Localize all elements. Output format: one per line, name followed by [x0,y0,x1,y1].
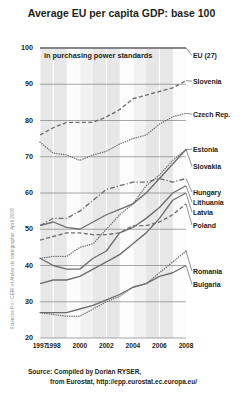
x-axis-tick-2000: 2000 [67,342,93,349]
chart-page: Average EU per capita GDP: base 100 Scie… [0,0,243,402]
series-leader-line [186,204,192,225]
source-note: Source: Compiled by Dorian RYSER, from E… [28,367,197,386]
x-axis-tick-2004: 2004 [120,342,146,349]
series-leader-line [186,150,192,167]
series-label-slovakia: Slovakia [193,163,221,170]
series-leader-line [186,179,192,193]
series-leader-line [186,186,192,202]
y-axis-tick-20: 20 [13,333,33,342]
series-label-slovenia: Slovenia [193,78,221,85]
series-label-latvia: Latvia [193,209,213,216]
x-axis-tick-2006: 2006 [146,342,172,349]
source-line-2: from Eurostat, http://epp.eurostat.ec.eu… [28,377,197,387]
series-label-romania: Romania [193,268,222,275]
chart-subtitle-note: in purchasing power standards [44,51,152,60]
series-leader-line [186,193,192,212]
source-line-1: Source: Compiled by Dorian RYSER, [28,368,141,375]
x-axis-tick-2002: 2002 [93,342,119,349]
series-label-estonia: Estonia [193,146,218,153]
series-leader-line [186,81,192,82]
series-label-poland: Poland [193,222,216,229]
series-label-lithuania: Lithuania [193,199,224,206]
y-axis-tick-70: 70 [13,152,33,161]
series-label-hungary: Hungary [193,189,221,196]
y-axis-tick-30: 30 [13,297,33,306]
y-axis-tick-90: 90 [13,79,33,88]
y-axis-tick-60: 60 [13,188,33,197]
y-axis-tick-80: 80 [13,116,33,125]
y-axis-tick-40: 40 [13,261,33,270]
y-axis-tick-50: 50 [13,224,33,233]
series-leader-line [186,48,192,55]
y-axis-tick-100: 100 [13,43,33,52]
series-label-bulgaria: Bulgaria [193,281,221,288]
series-label-czech-rep: Czech Rep. [193,111,230,118]
x-axis-tick-2008: 2008 [173,342,199,349]
x-axis-tick-1998: 1998 [40,342,66,349]
series-label-eu-27: EU (27) [193,52,217,59]
series-leader-line [186,113,192,114]
